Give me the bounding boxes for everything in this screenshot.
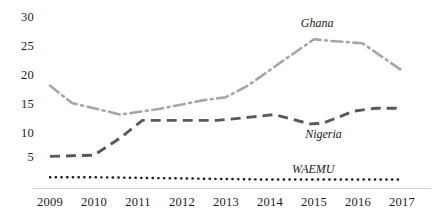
x-tick-label: 2015 (292, 196, 336, 209)
x-axis-line (33, 188, 431, 189)
x-tick-label: 2009 (28, 196, 72, 209)
x-axis: 2009 2010 2011 2012 2013 2014 2015 2016 … (0, 196, 434, 218)
series-nigeria (50, 108, 402, 156)
x-tick-label: 2013 (204, 196, 248, 209)
series-ghana (50, 39, 402, 114)
series-label-ghana: Ghana (301, 17, 334, 29)
x-tick-label: 2016 (336, 196, 380, 209)
series-waemu (50, 177, 402, 179)
series-label-waemu: WAEMU (292, 163, 334, 175)
x-tick-label: 2011 (116, 196, 160, 209)
series-label-nigeria: Nigeria (305, 128, 342, 140)
plot-area (0, 0, 434, 224)
x-tick-label: 2014 (248, 196, 292, 209)
x-tick-label: 2017 (380, 196, 424, 209)
line-chart: 30 25 20 15 10 5 Ghana Nigeria WAEMU 200… (0, 0, 434, 224)
x-tick-label: 2012 (160, 196, 204, 209)
x-tick-label: 2010 (72, 196, 116, 209)
